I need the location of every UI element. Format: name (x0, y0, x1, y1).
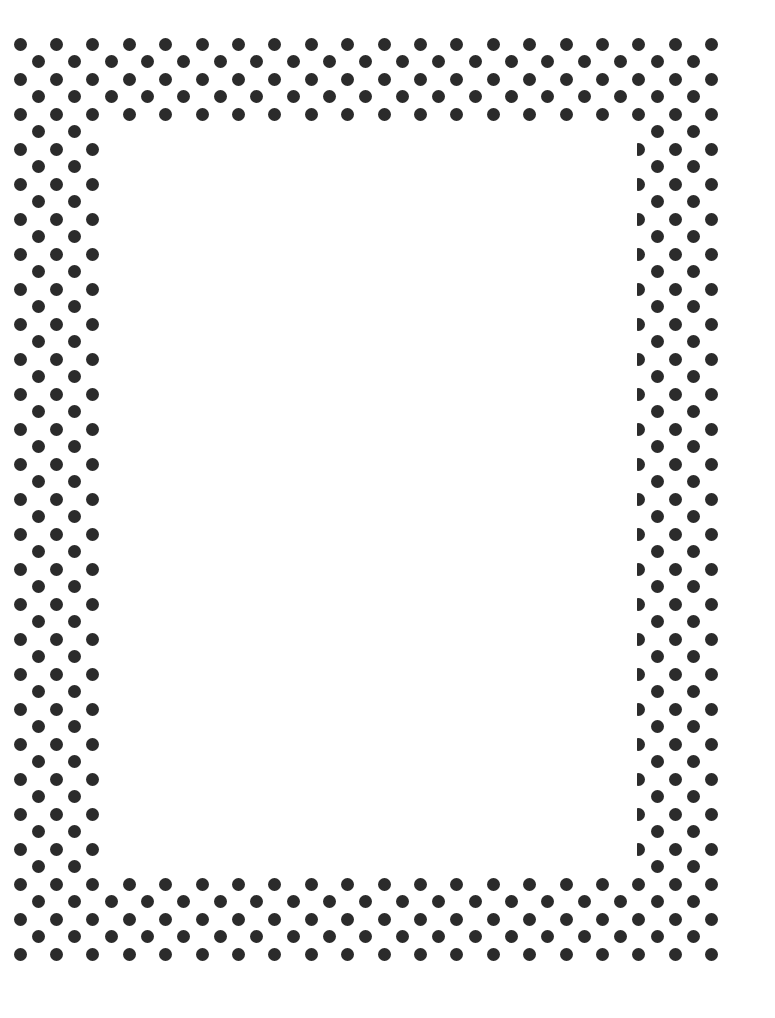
polka-dot (687, 440, 700, 453)
polka-dot (541, 55, 554, 68)
polka-dot (505, 55, 518, 68)
polka-dot (651, 545, 664, 558)
polka-dot (268, 38, 281, 51)
polka-dot (86, 248, 99, 261)
polka-dot (50, 773, 63, 786)
polka-dot (287, 930, 300, 943)
polka-dot (414, 73, 427, 86)
polka-dot (86, 143, 99, 156)
polka-dot (250, 90, 263, 103)
polka-dot (32, 755, 45, 768)
polka-dot (177, 55, 190, 68)
polka-dot (669, 773, 682, 786)
polka-dot (105, 55, 118, 68)
polka-dot (560, 948, 573, 961)
polka-dot (50, 143, 63, 156)
polka-dot (687, 265, 700, 278)
polka-dot (705, 493, 718, 506)
polka-dot (32, 335, 45, 348)
polka-dot (50, 248, 63, 261)
polka-dot (159, 913, 172, 926)
polka-dot (505, 90, 518, 103)
polka-dot (359, 90, 372, 103)
polka-dot (669, 633, 682, 646)
polka-dot (651, 685, 664, 698)
polka-dot (669, 878, 682, 891)
polka-dot (177, 90, 190, 103)
polka-dot (705, 843, 718, 856)
polka-dot (560, 913, 573, 926)
polka-dot (32, 580, 45, 593)
polka-dot (469, 55, 482, 68)
polka-dot (523, 38, 536, 51)
polka-dot (341, 878, 354, 891)
polka-dot (50, 283, 63, 296)
polka-dot (687, 825, 700, 838)
polka-dot (68, 55, 81, 68)
polka-dot (705, 773, 718, 786)
polka-dot (86, 493, 99, 506)
polka-dot (541, 895, 554, 908)
polka-dot (50, 423, 63, 436)
polka-dot (705, 948, 718, 961)
polka-dot (705, 38, 718, 51)
polka-dot (669, 808, 682, 821)
polka-dot (396, 90, 409, 103)
polka-dot (414, 108, 427, 121)
polka-dot (268, 108, 281, 121)
polka-dot (596, 878, 609, 891)
polka-dot (378, 913, 391, 926)
polka-dot (68, 510, 81, 523)
polka-dot (86, 808, 99, 821)
polka-dot (651, 195, 664, 208)
polka-dot (705, 143, 718, 156)
polka-dot (414, 948, 427, 961)
polka-dot (669, 423, 682, 436)
polka-dot (687, 405, 700, 418)
polka-dot (86, 633, 99, 646)
polka-dot (578, 90, 591, 103)
polka-dot (705, 178, 718, 191)
polka-dot (287, 55, 300, 68)
blank-inner-area (105, 125, 637, 870)
polka-dot (86, 913, 99, 926)
polka-dot (123, 878, 136, 891)
polka-dot (305, 73, 318, 86)
polka-dot (705, 563, 718, 576)
polka-dot (359, 895, 372, 908)
polka-dot (32, 860, 45, 873)
polka-dot (450, 38, 463, 51)
polka-dot (651, 895, 664, 908)
polka-dot (14, 143, 27, 156)
polka-dot (341, 108, 354, 121)
polka-dot (159, 73, 172, 86)
polka-dot (651, 440, 664, 453)
polka-dot (705, 528, 718, 541)
polka-dot (705, 703, 718, 716)
polka-dot (687, 160, 700, 173)
polka-dot (705, 808, 718, 821)
polka-dot (651, 580, 664, 593)
polka-dot (669, 598, 682, 611)
polka-dot (214, 930, 227, 943)
polka-dot (86, 423, 99, 436)
polka-dot (14, 283, 27, 296)
polka-dot (469, 930, 482, 943)
polka-dot (705, 738, 718, 751)
polka-dot (68, 615, 81, 628)
polka-dot (632, 913, 645, 926)
polka-dot (32, 90, 45, 103)
polka-dot (68, 90, 81, 103)
polka-dot (68, 475, 81, 488)
polka-dot (14, 248, 27, 261)
polka-dot (578, 930, 591, 943)
polka-dot (378, 38, 391, 51)
polka-dot (50, 38, 63, 51)
polka-dot (305, 948, 318, 961)
polka-dot (32, 405, 45, 418)
polka-dot (14, 808, 27, 821)
polka-dot (86, 773, 99, 786)
polka-dot (323, 930, 336, 943)
polka-dot (32, 825, 45, 838)
polka-dot (14, 668, 27, 681)
